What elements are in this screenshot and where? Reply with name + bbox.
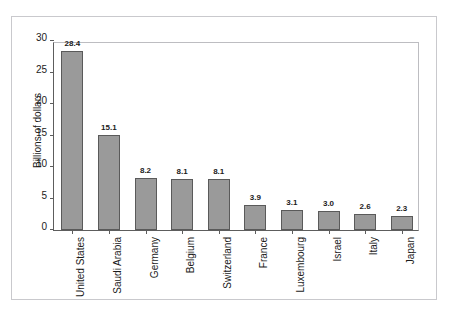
figure-frame: Billions of dollars 051015202530 28.415.… [11, 16, 437, 300]
x-axis-label: Saudi Arabia [112, 237, 123, 294]
bar[interactable] [98, 135, 120, 230]
x-axis-label: France [258, 237, 269, 268]
bar-value-label: 8.1 [213, 168, 224, 176]
bar[interactable] [135, 178, 157, 230]
bar-group[interactable]: 3.1 [281, 41, 303, 230]
y-tick-label: 15 [36, 128, 47, 138]
x-axis-category-labels: United StatesSaudi ArabiaGermanyBelgiumS… [53, 231, 419, 301]
bar-chart: Billions of dollars 051015202530 28.415.… [12, 17, 438, 301]
x-axis-label: Luxembourg [295, 237, 306, 293]
bar-value-label: 28.4 [65, 40, 81, 48]
bar-group[interactable]: 8.2 [135, 41, 157, 230]
x-axis-label: Italy [368, 237, 379, 255]
bar-value-label: 3.9 [250, 194, 261, 202]
bar-value-label: 2.3 [396, 205, 407, 213]
bar-group[interactable]: 15.1 [98, 41, 120, 230]
x-axis-label: Switzerland [222, 237, 233, 289]
bar-group[interactable]: 2.6 [354, 41, 376, 230]
y-tick-mark [50, 40, 54, 41]
x-axis-label: United States [75, 237, 86, 297]
bar-group[interactable]: 8.1 [171, 41, 193, 230]
bar-value-label: 8.1 [177, 168, 188, 176]
bar-value-label: 3.1 [286, 199, 297, 207]
bar[interactable] [61, 51, 83, 230]
x-axis-label: Japan [405, 237, 416, 264]
bars-layer: 28.415.18.28.18.13.93.13.02.62.3 [54, 43, 418, 230]
x-axis-label: Israel [332, 237, 343, 261]
bar[interactable] [354, 214, 376, 230]
bar-group[interactable]: 8.1 [208, 41, 230, 230]
bar-group[interactable]: 3.9 [244, 41, 266, 230]
y-tick-label: 30 [36, 33, 47, 43]
y-tick-label: 10 [36, 159, 47, 169]
bar[interactable] [391, 216, 413, 230]
bar[interactable] [208, 179, 230, 230]
scan-artifact-text [14, 0, 434, 9]
x-axis-label: Germany [149, 237, 160, 278]
bar-group[interactable]: 28.4 [61, 41, 83, 230]
bar-group[interactable]: 2.3 [391, 41, 413, 230]
bar[interactable] [281, 210, 303, 230]
y-tick-label: 5 [41, 191, 47, 201]
bar-value-label: 8.2 [140, 167, 151, 175]
bar[interactable] [318, 211, 340, 230]
bar-value-label: 3.0 [323, 200, 334, 208]
bar-group[interactable]: 3.0 [318, 41, 340, 230]
y-tick-label: 20 [36, 96, 47, 106]
bar[interactable] [171, 179, 193, 230]
bar-value-label: 2.6 [360, 203, 371, 211]
bar-value-label: 15.1 [101, 124, 117, 132]
y-tick-label: 25 [36, 65, 47, 75]
plot-area: 051015202530 28.415.18.28.18.13.93.13.02… [53, 42, 419, 231]
x-axis-label: Belgium [185, 237, 196, 273]
bar[interactable] [244, 205, 266, 230]
y-tick-label: 0 [41, 222, 47, 232]
